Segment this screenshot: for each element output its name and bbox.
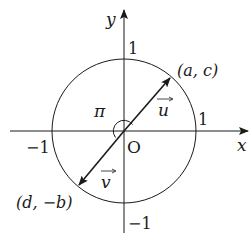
tick-y-pos: 1 — [128, 39, 138, 58]
origin-label: O — [127, 137, 141, 157]
y-axis-label: y — [105, 9, 116, 29]
tick-x-neg: −1 — [26, 138, 50, 157]
vector-v-label: v — [101, 169, 116, 192]
tick-x-pos: 1 — [198, 110, 208, 129]
angle-label: π — [93, 101, 106, 121]
svg-text:u: u — [158, 100, 169, 120]
x-axis-label: x — [237, 135, 247, 155]
angle-arc — [113, 120, 132, 137]
svg-text:v: v — [101, 172, 111, 192]
vector-u-label: u — [157, 97, 173, 120]
endpoint-u-label: (a, c) — [177, 61, 218, 80]
endpoint-v-label: (d, −b) — [16, 193, 73, 212]
unit-circle-diagram: x y O 1 −1 1 −1 π u v (a, c) (d, −b) — [0, 0, 250, 247]
tick-y-neg: −1 — [128, 214, 152, 233]
